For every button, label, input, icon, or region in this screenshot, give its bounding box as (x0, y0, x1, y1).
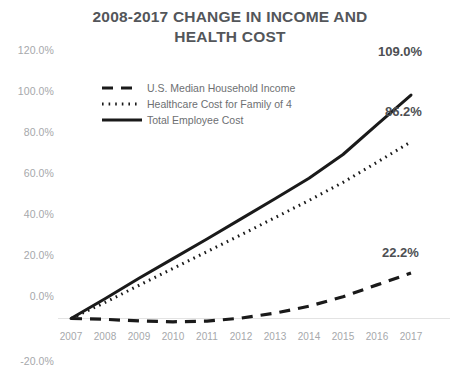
chart-legend: U.S. Median Household Income Healthcare … (100, 80, 295, 128)
legend-marker-dotted-icon (100, 98, 142, 110)
legend-label-median-household-income: U.S. Median Household Income (147, 82, 295, 94)
legend-label-total-employee-cost: Total Employee Cost (147, 114, 243, 126)
data-label-healthcare-cost: 86.2% (385, 104, 422, 119)
data-label-total-employee-cost: 109.0% (378, 44, 422, 59)
series-line-median-household-income (71, 273, 411, 322)
legend-item-median-household-income: U.S. Median Household Income (100, 80, 295, 96)
data-label-median-income: 22.2% (382, 245, 419, 260)
legend-marker-solid-icon (100, 114, 142, 126)
series-line-total-employee-cost (71, 95, 411, 318)
legend-item-total-employee-cost: Total Employee Cost (100, 112, 295, 128)
legend-marker-dashed-icon (100, 82, 142, 94)
chart-container: 2008-2017 CHANGE IN INCOME AND HEALTH CO… (0, 0, 461, 381)
legend-item-healthcare-cost: Healthcare Cost for Family of 4 (100, 96, 295, 112)
legend-label-healthcare-cost: Healthcare Cost for Family of 4 (147, 98, 292, 110)
